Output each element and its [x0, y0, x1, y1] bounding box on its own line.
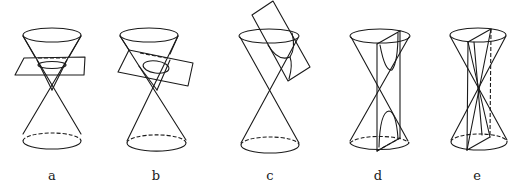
- panel-d-hyperbola-section: [350, 29, 410, 151]
- panel-a-circle-section: [15, 28, 85, 149]
- panel-e-degenerate-section: [450, 28, 507, 150]
- label-a: a: [42, 168, 62, 183]
- conic-sections-diagram: [0, 0, 520, 190]
- label-b: b: [146, 168, 166, 183]
- label-e: e: [467, 168, 487, 183]
- label-d: d: [368, 168, 388, 183]
- label-c: c: [260, 168, 280, 183]
- panel-b-ellipse-section: [118, 28, 193, 151]
- panel-c-parabola-section: [239, 1, 310, 153]
